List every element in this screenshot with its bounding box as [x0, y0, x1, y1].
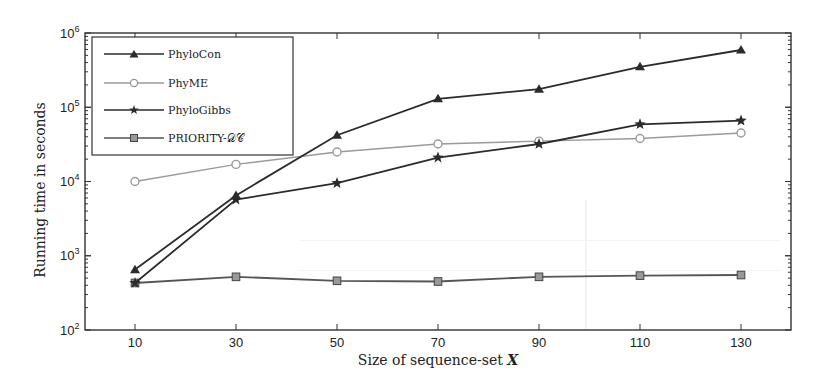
circle-marker-icon [131, 178, 139, 186]
svg-text:PRIORITY-𝒟𝒞: PRIORITY-𝒟𝒞 [168, 132, 245, 145]
x-tick-label: 30 [229, 335, 243, 350]
circle-marker-icon [232, 160, 240, 168]
square-marker-icon [131, 135, 138, 142]
svg-text:PhyloCon: PhyloCon [168, 48, 221, 61]
svg-text:PhyME: PhyME [168, 77, 208, 90]
series-priority-dc [131, 271, 745, 287]
square-marker-icon [535, 273, 543, 281]
star-marker-icon [735, 115, 746, 126]
x-tick-label: 70 [431, 335, 445, 350]
square-marker-icon [636, 272, 644, 280]
bleed-through-text [300, 200, 780, 330]
triangle-marker-icon [231, 190, 241, 199]
circle-marker-icon [130, 79, 137, 86]
y-tick-label: 106 [60, 24, 79, 41]
x-tick-label: 10 [128, 335, 142, 350]
line-chart: 102 103 104 105 106 10 30 50 70 90 110 1… [0, 0, 821, 388]
circle-marker-icon [737, 129, 745, 137]
svg-text:PhyloGibbs: PhyloGibbs [168, 104, 231, 117]
x-tick-label: 130 [730, 335, 752, 350]
star-marker-icon [634, 118, 645, 129]
y-tick-label: 102 [60, 321, 79, 338]
y-axis-title: Running time in seconds [32, 102, 48, 277]
square-marker-icon [434, 278, 442, 286]
triangle-marker-icon [736, 45, 746, 54]
y-tick-label: 105 [60, 98, 79, 115]
star-marker-icon [432, 152, 443, 163]
y-axis-tick-labels: 102 103 104 105 106 [60, 24, 79, 338]
circle-marker-icon [636, 134, 644, 142]
circle-marker-icon [434, 140, 442, 148]
x-axis-tick-labels: 10 30 50 70 90 110 130 [128, 335, 752, 350]
y-tick-label: 104 [60, 172, 79, 189]
x-axis-title: Size of sequence-set X [358, 352, 519, 368]
x-tick-label: 110 [630, 335, 651, 350]
x-tick-label: 50 [330, 335, 344, 350]
circle-marker-icon [333, 148, 341, 156]
square-marker-icon [333, 277, 341, 285]
x-tick-label: 90 [532, 335, 546, 350]
square-marker-icon [737, 271, 745, 279]
y-tick-label: 103 [60, 246, 79, 263]
square-marker-icon [232, 273, 240, 281]
star-marker-icon [331, 177, 342, 188]
legend: PhyloCon PhyME PhyloGibbs PRIORITY-𝒟𝒞 [92, 37, 293, 155]
